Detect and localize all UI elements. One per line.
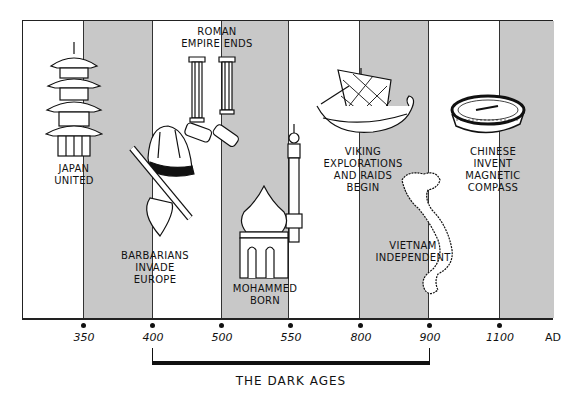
event-label-vietnam: VIETNAM INDEPENDENT — [374, 240, 452, 264]
event-label-viking: VIKING EXPLORATIONS AND RAIDS BEGIN — [318, 146, 408, 194]
tick-label-550: 550 — [281, 331, 302, 344]
tick-350 — [81, 323, 86, 328]
tick-label-1100: 1100 — [486, 331, 514, 344]
tick-label-900: 900 — [420, 331, 441, 344]
helmet-axe-icon — [120, 118, 200, 238]
tick-label-800: 800 — [351, 331, 372, 344]
event-label-barbarians: BARBARIANS INVADE EUROPE — [118, 250, 192, 286]
tick-1100 — [497, 323, 502, 328]
tick-400 — [150, 323, 155, 328]
tick-900 — [427, 323, 432, 328]
tick-800 — [358, 323, 363, 328]
era-label: AD — [545, 331, 561, 344]
event-label-compass: CHINESE INVENT MAGNETIC COMPASS — [458, 146, 528, 194]
tick-550 — [288, 323, 293, 328]
tick-label-350: 350 — [74, 331, 95, 344]
dark-ages-bracket — [152, 348, 430, 365]
mosque-icon — [234, 122, 304, 282]
pagoda-icon — [45, 40, 103, 158]
event-label-rome: ROMAN EMPIRE ENDS — [172, 26, 262, 50]
tick-500 — [219, 323, 224, 328]
tick-label-400: 400 — [143, 331, 164, 344]
event-label-japan: JAPAN UNITED — [40, 163, 108, 187]
event-label-mohammed: MOHAMMED BORN — [230, 283, 300, 307]
dark-ages-label: THE DARK AGES — [152, 374, 430, 388]
compass-icon — [448, 88, 528, 138]
viking-ship-icon — [313, 66, 423, 146]
tick-label-500: 500 — [212, 331, 233, 344]
